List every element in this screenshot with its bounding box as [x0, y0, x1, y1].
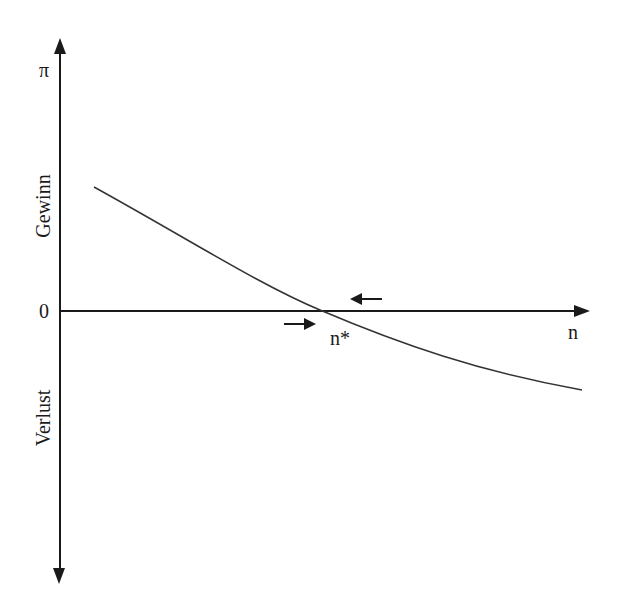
x-axis-right-arrow-icon	[574, 305, 590, 317]
arrow-left-icon	[350, 293, 382, 305]
pi-symbol: π	[39, 59, 49, 81]
x-axis-label: n	[568, 321, 578, 343]
verlust-label: Verlust	[32, 389, 54, 446]
profit-curve	[94, 187, 582, 390]
y-axis-up-arrow-icon	[54, 38, 66, 54]
x-axis	[60, 305, 590, 317]
y-axis-down-arrow-icon	[53, 568, 65, 584]
zero-label: 0	[39, 300, 49, 322]
gewinn-label: Gewinn	[32, 174, 54, 237]
equilibrium-label: n*	[330, 327, 350, 349]
diagram-canvas: π 0 Gewinn Verlust n n*	[0, 0, 617, 612]
arrow-right-icon	[284, 318, 316, 330]
